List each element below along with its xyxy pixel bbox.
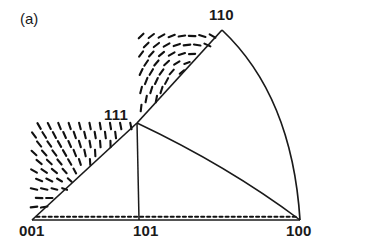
field-dash <box>159 34 165 37</box>
field-dash <box>74 150 76 156</box>
field-dash <box>31 188 37 189</box>
field-dash <box>95 132 96 139</box>
field-dash <box>140 69 143 75</box>
field-dash <box>52 150 56 155</box>
field-dash <box>170 70 174 75</box>
triangle-outline <box>32 30 300 220</box>
field-dash <box>149 34 154 38</box>
field-dash <box>63 150 66 156</box>
edge-111-101 <box>137 123 139 220</box>
field-dash <box>42 151 46 156</box>
field-dash <box>42 132 46 138</box>
field-dash <box>57 159 61 164</box>
field-dash <box>110 123 111 130</box>
field-dash <box>41 188 47 189</box>
field-dash <box>58 123 61 129</box>
field-dash <box>74 132 76 138</box>
field-dash <box>46 179 52 182</box>
field-dash <box>105 132 106 139</box>
field-dash <box>179 53 185 55</box>
field-dash <box>63 132 66 138</box>
field-dash <box>57 178 62 181</box>
field-dash <box>37 160 42 164</box>
field-dash <box>89 123 90 129</box>
field-dash <box>161 87 163 93</box>
field-dash <box>179 35 186 36</box>
field-dash <box>69 123 71 129</box>
field-dash <box>169 35 175 37</box>
field-dash <box>100 141 101 148</box>
field-dash <box>164 61 169 65</box>
field-dash <box>164 43 170 46</box>
field-dash <box>68 159 71 165</box>
field-dash <box>47 160 52 165</box>
field-dash <box>79 159 81 165</box>
field-dash <box>84 132 86 138</box>
field-dash <box>73 169 76 174</box>
field-dash <box>52 169 57 173</box>
field-dash <box>149 52 154 57</box>
stereographic-triangle-plot <box>0 0 367 248</box>
edge-001-111 <box>32 123 137 220</box>
field-dash <box>154 43 159 47</box>
field-dash <box>169 52 175 55</box>
field-dash <box>53 132 56 138</box>
field-dash <box>100 123 101 130</box>
field-dash <box>165 78 168 84</box>
panel-label: (a) <box>20 10 38 27</box>
field-dash <box>41 169 47 173</box>
field-dash <box>31 207 38 208</box>
field-dash <box>48 123 51 129</box>
field-dash <box>146 96 147 102</box>
field-dash <box>139 34 144 39</box>
field-dash <box>68 141 71 147</box>
field-dash <box>120 123 121 129</box>
field-dash <box>174 44 180 46</box>
field-dash <box>159 52 164 56</box>
field-dash <box>79 141 81 147</box>
vertex-label-100: 100 <box>286 222 312 239</box>
field-dash <box>52 188 58 190</box>
field-dash <box>79 123 81 129</box>
field-dash <box>154 60 158 65</box>
field-dash <box>145 78 147 84</box>
field-dash <box>58 141 61 147</box>
field-dash <box>32 151 37 156</box>
field-dash <box>194 45 201 46</box>
field-dash <box>160 69 164 74</box>
field-dash <box>144 43 149 48</box>
field-dash <box>68 178 72 182</box>
field-dash <box>84 150 85 156</box>
field-dash <box>144 60 148 65</box>
arc-111-100 <box>137 123 300 220</box>
field-dash <box>31 169 37 172</box>
field-dash <box>63 169 67 173</box>
field-dash <box>36 179 42 182</box>
field-dash <box>115 132 116 139</box>
field-dash <box>174 61 179 64</box>
field-dash <box>141 105 142 112</box>
figure-panel: (a) 110 111 001 101 100 <box>0 0 367 248</box>
field-dash <box>184 62 189 64</box>
field-dash <box>155 78 158 84</box>
vertex-label-111: 111 <box>104 106 128 123</box>
field-dash <box>150 69 153 75</box>
field-dash <box>32 132 36 137</box>
vertex-label-101: 101 <box>133 222 159 239</box>
vertex-label-001: 001 <box>19 222 45 239</box>
field-dash <box>199 35 205 37</box>
field-dash <box>37 123 40 129</box>
vertex-label-110: 110 <box>209 6 234 23</box>
field-dash <box>37 141 41 146</box>
field-dash <box>150 87 152 93</box>
field-dash <box>139 51 143 56</box>
arc-110-100 <box>222 30 300 220</box>
field-dash <box>47 141 51 146</box>
field-dash <box>90 141 91 148</box>
field-dash <box>140 87 142 93</box>
field-dash <box>184 45 191 46</box>
